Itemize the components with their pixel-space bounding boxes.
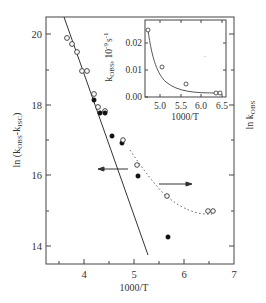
x-tick-6: 6 bbox=[181, 269, 186, 280]
y-tick-20: 20 bbox=[32, 29, 43, 40]
inset-stray-mark: · bbox=[204, 54, 206, 60]
ln-kobs-dotted-curve bbox=[130, 150, 212, 214]
y-tick-16: 16 bbox=[32, 170, 43, 181]
left-arrow-annotation bbox=[98, 167, 128, 171]
y-left-axis-title: ln (kOBS-kISC) bbox=[11, 113, 24, 168]
y-tick-18: 18 bbox=[32, 100, 43, 111]
x-axis-title: 1000/T bbox=[120, 282, 149, 293]
inset-x-tick-5.5: 5.5 bbox=[175, 101, 187, 111]
inset-y-tick-labels: 0.02 0.01 0.00 bbox=[125, 38, 142, 102]
y-left-tick-labels: 20 18 16 14 bbox=[32, 29, 43, 252]
inset-x-axis-title: 1000/T bbox=[171, 112, 199, 122]
inset-chart: 5.0 5.5 6.0 6.5 1000/T 0.02 0.01 0.00 kO… bbox=[102, 20, 228, 122]
x-tick-7: 7 bbox=[231, 269, 236, 280]
inset-y-tick-0.01: 0.01 bbox=[125, 65, 142, 75]
x-axis-ticks bbox=[59, 259, 209, 264]
inset-x-tick-labels: 5.0 5.5 6.0 6.5 bbox=[154, 101, 228, 111]
x-tick-4: 4 bbox=[81, 269, 87, 280]
inset-x-tick-5.0: 5.0 bbox=[154, 101, 166, 111]
chart: 4 5 6 7 1000/T 20 18 16 14 ln (kOBS-kISC… bbox=[0, 0, 266, 303]
y-right-ticks bbox=[229, 34, 234, 246]
y-tick-14: 14 bbox=[32, 241, 43, 252]
x-axis-tick-labels: 4 5 6 7 bbox=[81, 269, 236, 280]
inset-x-tick-6.0: 6.0 bbox=[195, 101, 207, 111]
inset-y-axis-title: kOBS, 10-9s-1 bbox=[102, 32, 116, 82]
ln-kobs-points bbox=[121, 138, 216, 214]
open-circle-points bbox=[65, 36, 108, 114]
inset-y-tick-0.02: 0.02 bbox=[125, 38, 142, 48]
inset-x-tick-6.5: 6.5 bbox=[216, 101, 228, 111]
y-left-ticks bbox=[46, 34, 51, 246]
y-right-axis-title: ln kOBS bbox=[244, 100, 257, 129]
inset-y-tick-0.00: 0.00 bbox=[125, 92, 142, 102]
right-arrow-annotation bbox=[159, 182, 192, 186]
x-tick-5: 5 bbox=[131, 269, 136, 280]
